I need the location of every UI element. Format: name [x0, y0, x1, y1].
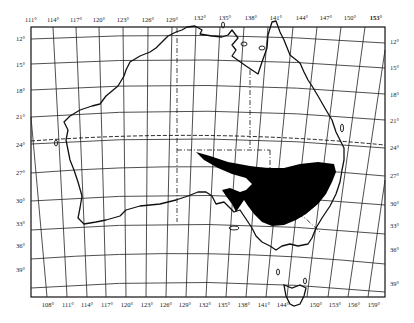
lon-label: 147° — [320, 15, 332, 22]
lat-label: 33° — [390, 223, 399, 230]
island — [341, 124, 344, 132]
lat-label: 27° — [16, 170, 25, 177]
lon-label: 153° — [370, 15, 382, 22]
lat-label: 12° — [16, 36, 25, 43]
australia-map — [0, 0, 414, 323]
shaded-distribution-region — [196, 152, 336, 226]
lat-label: 18° — [16, 88, 25, 95]
island — [259, 46, 265, 50]
lon-label: 156° — [348, 302, 360, 309]
lon-label: 114° — [47, 17, 59, 24]
lat-label: 30° — [16, 198, 25, 205]
lon-label: 150° — [310, 302, 322, 309]
lat-label: 33° — [16, 221, 25, 228]
lon-label: 150° — [344, 15, 356, 22]
lon-label: 123° — [141, 302, 153, 309]
lon-label: 126° — [142, 17, 154, 24]
lon-label: 144° — [277, 302, 289, 309]
lat-label: 30° — [390, 201, 399, 208]
lon-label: 153° — [329, 302, 341, 309]
lat-label: 27° — [390, 173, 399, 180]
island — [241, 42, 247, 46]
lat-label: 36° — [16, 243, 25, 250]
lon-label: 132° — [194, 15, 206, 22]
lon-label: 123° — [117, 17, 129, 24]
lon-label: 117° — [101, 302, 113, 309]
lon-label: 135° — [218, 302, 230, 309]
lat-label: 15° — [390, 65, 399, 72]
lat-label: 36° — [390, 247, 399, 254]
lat-label: 39° — [16, 267, 25, 274]
lon-label: 111° — [25, 17, 37, 24]
lat-label: 15° — [16, 62, 25, 69]
lon-label: 111° — [62, 302, 74, 309]
lat-label: 21° — [16, 114, 25, 121]
island — [277, 269, 280, 275]
lon-label: 132° — [199, 302, 211, 309]
lat-label: 24° — [16, 142, 25, 149]
lon-label: 129° — [166, 17, 178, 24]
island — [304, 278, 307, 284]
lon-label: 138° — [238, 302, 250, 309]
lon-label: 120° — [121, 302, 133, 309]
lat-label: 21° — [390, 118, 399, 125]
lat-label: 39° — [390, 281, 399, 288]
lon-label: 138° — [245, 15, 257, 22]
lat-label: 24° — [390, 145, 399, 152]
lon-label: 114° — [81, 302, 93, 309]
lat-label: 12° — [390, 39, 399, 46]
lon-label: 144° — [296, 15, 308, 22]
lon-label: 117° — [70, 17, 82, 24]
island — [55, 140, 58, 146]
lon-label: 129° — [179, 302, 191, 309]
lon-label: 135° — [219, 15, 231, 22]
lon-label: 120° — [93, 17, 105, 24]
lat-label: 18° — [390, 92, 399, 99]
lon-label: 159° — [368, 302, 380, 309]
lon-label: 126° — [160, 302, 172, 309]
lon-label: 141° — [258, 302, 270, 309]
lon-label: 141° — [270, 15, 282, 22]
lon-label: 108° — [42, 302, 54, 309]
